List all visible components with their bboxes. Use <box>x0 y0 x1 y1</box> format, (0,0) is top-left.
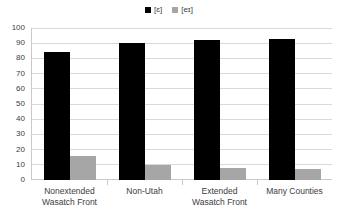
bar-ei[interactable] <box>220 168 246 180</box>
bar-group-nonextended-wasatch-front <box>32 28 107 180</box>
x-label-non-utah: Non-Utah <box>107 186 182 218</box>
x-label-line: Wasatch Front <box>33 197 106 208</box>
y-tick-label: 100 <box>12 24 25 32</box>
y-tick-label: 0 <box>21 176 25 184</box>
y-tick-label: 80 <box>16 54 25 62</box>
y-tick-label: 10 <box>16 161 25 169</box>
x-label-line: Nonextended <box>33 186 106 197</box>
legend-label-ei: [eɪ] <box>181 6 193 14</box>
legend-swatch-epsilon-icon <box>145 7 151 13</box>
x-axis-labels: Nonextended Wasatch Front Non-Utah Exten… <box>32 186 332 218</box>
category-separator <box>257 180 258 185</box>
legend-entry-epsilon: [ɛ] <box>145 6 162 14</box>
bar-ei[interactable] <box>145 165 171 180</box>
x-label-extended-wasatch-front: Extended Wasatch Front <box>182 186 257 218</box>
bar-chart: [ɛ] [eɪ] 100 90 80 70 60 50 40 30 20 10 … <box>0 0 338 220</box>
y-tick-label: 90 <box>16 39 25 47</box>
bar-epsilon[interactable] <box>119 43 145 180</box>
y-tick-label: 40 <box>16 115 25 123</box>
x-label-many-counties: Many Counties <box>257 186 332 218</box>
y-tick-label: 30 <box>16 130 25 138</box>
bar-groups <box>32 28 332 180</box>
x-label-line: Extended <box>183 186 256 197</box>
legend-label-epsilon: [ɛ] <box>154 6 162 14</box>
category-separator <box>182 180 183 185</box>
legend-swatch-ei-icon <box>172 7 178 13</box>
legend-entry-ei: [eɪ] <box>172 6 193 14</box>
bar-epsilon[interactable] <box>194 40 220 180</box>
x-label-line: Wasatch Front <box>183 197 256 208</box>
category-separator <box>107 180 108 185</box>
y-tick-label: 60 <box>16 85 25 93</box>
bar-ei[interactable] <box>70 156 96 180</box>
x-label-line: Many Counties <box>258 186 331 197</box>
bar-ei[interactable] <box>295 169 321 180</box>
y-axis: 100 90 80 70 60 50 40 30 20 10 0 <box>0 28 28 180</box>
bar-group-non-utah <box>107 28 182 180</box>
y-tick-label: 20 <box>16 146 25 154</box>
x-label-line: Non-Utah <box>108 186 181 197</box>
y-tick-label: 70 <box>16 70 25 78</box>
chart-legend: [ɛ] [eɪ] <box>0 2 338 18</box>
bar-group-extended-wasatch-front <box>182 28 257 180</box>
x-label-nonextended-wasatch-front: Nonextended Wasatch Front <box>32 186 107 218</box>
bar-epsilon[interactable] <box>269 39 295 180</box>
y-tick-label: 50 <box>16 100 25 108</box>
bar-group-many-counties <box>257 28 332 180</box>
bar-epsilon[interactable] <box>44 52 70 180</box>
